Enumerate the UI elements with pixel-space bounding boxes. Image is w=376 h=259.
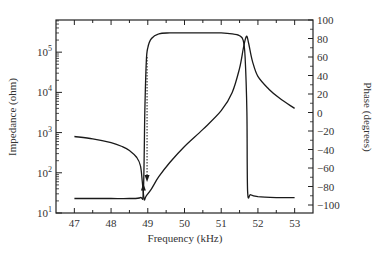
x-tick-label: 52: [252, 217, 263, 229]
y2-tick-label: −40: [317, 144, 335, 156]
y2-tick-label: 80: [317, 33, 329, 45]
y-tick-label: 103: [37, 125, 52, 139]
y2-tick-label: −60: [317, 162, 335, 174]
x-tick-label: 50: [179, 217, 191, 229]
y2-tick-label: 60: [317, 51, 329, 63]
arrow-up-icon: [141, 184, 146, 191]
x-tick-label: 51: [216, 217, 227, 229]
series-layer: [74, 33, 294, 200]
y-tick-label: 105: [37, 44, 52, 58]
y-tick-label: 101: [37, 205, 52, 219]
y-axis-left-title: Impedance (ohm): [6, 78, 19, 156]
y2-tick-label: −20: [317, 125, 335, 137]
y-axis-right-title: Phase (degrees): [361, 82, 374, 152]
y2-tick-label: 0: [317, 107, 323, 119]
impedance-curve: [74, 36, 294, 200]
y-tick-label: 102: [37, 165, 52, 179]
y-tick-label: 104: [37, 84, 52, 98]
x-axis-title: Frequency (kHz): [148, 232, 223, 245]
y2-tick-label: 40: [317, 70, 329, 82]
y2-tick-label: −100: [317, 199, 340, 211]
plot-border: [56, 20, 313, 213]
x-tick-label: 49: [142, 217, 154, 229]
y2-tick-label: 20: [317, 88, 329, 100]
y-axis-impedance: 101102103104105: [37, 21, 62, 219]
x-tick-label: 53: [289, 217, 301, 229]
y2-tick-label: −80: [317, 181, 335, 193]
impedance-phase-chart: 47484950515253 101102103104105 100806040…: [0, 0, 376, 259]
x-tick-label: 48: [106, 217, 118, 229]
phase-curve: [74, 33, 294, 199]
x-tick-label: 47: [69, 217, 81, 229]
y2-tick-label: 100: [317, 14, 334, 26]
arrow-down-icon: [145, 175, 150, 182]
plot-frame: [56, 20, 313, 213]
